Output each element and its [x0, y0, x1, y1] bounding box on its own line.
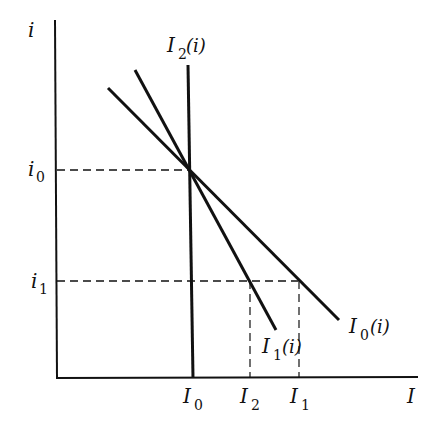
- tick-I1: I 1: [289, 384, 310, 413]
- tick-i1: i 1: [31, 269, 48, 297]
- svg-text:(i): (i): [282, 336, 302, 357]
- svg-text:0: 0: [194, 397, 203, 413]
- svg-text:2: 2: [251, 397, 260, 413]
- x-axis: [57, 377, 418, 378]
- label-I2-of-i: I 2 (i): [166, 33, 206, 62]
- svg-text:0: 0: [360, 327, 369, 343]
- svg-text:I: I: [239, 384, 249, 408]
- tick-I2: I 2: [239, 384, 260, 413]
- x-axis-label: I: [406, 384, 416, 408]
- curve-I1-steep: [135, 70, 276, 330]
- svg-text:(i): (i): [186, 35, 206, 56]
- curve-I2-vertical: [188, 65, 193, 378]
- y-axis-label: i: [28, 18, 34, 42]
- svg-text:i: i: [31, 269, 37, 293]
- svg-text:I: I: [166, 33, 176, 57]
- svg-text:I: I: [289, 384, 299, 408]
- y-axis: [55, 20, 57, 379]
- label-I0-of-i: I 0 (i): [348, 314, 390, 343]
- tick-i0: i 0: [28, 157, 45, 185]
- svg-text:0: 0: [36, 169, 45, 185]
- curve-I0-flat: [108, 88, 339, 320]
- svg-text:1: 1: [273, 347, 282, 363]
- svg-text:I: I: [182, 384, 192, 408]
- svg-text:1: 1: [39, 281, 48, 297]
- svg-text:I: I: [261, 334, 271, 358]
- label-I1-of-i: I 1 (i): [261, 334, 302, 363]
- svg-text:1: 1: [301, 397, 310, 413]
- tick-I0: I 0: [182, 384, 203, 413]
- svg-text:(i): (i): [370, 316, 390, 337]
- svg-text:i: i: [28, 157, 34, 181]
- svg-text:I: I: [348, 314, 358, 338]
- investment-interest-diagram: i I i 0 i 1 I 0 I 2 I 1 I 2 (i) I 1 (i) …: [0, 0, 431, 436]
